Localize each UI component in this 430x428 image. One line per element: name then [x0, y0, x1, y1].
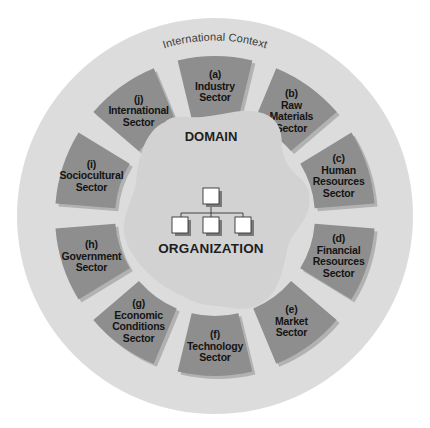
org-box-middle: [203, 217, 219, 233]
org-box-left: [172, 217, 188, 233]
environment-diagram: International Context (a)IndustrySector(…: [0, 0, 430, 428]
diagram-canvas: International Context (a)IndustrySector(…: [0, 0, 430, 428]
org-box-right: [235, 217, 251, 233]
organization-label: ORGANIZATION: [158, 241, 264, 256]
org-box-top: [203, 188, 219, 204]
domain-label: DOMAIN: [185, 129, 238, 144]
